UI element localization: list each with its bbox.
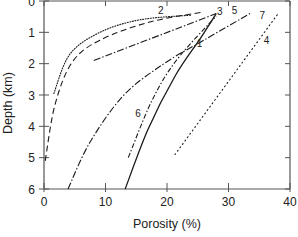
x-tick-label: 0: [41, 195, 48, 209]
axes: 0102030400123456: [28, 0, 297, 209]
y-tick-label: 2: [28, 57, 35, 71]
porosity-depth-chart: 0102030400123456 1234567 Porosity (%) De…: [0, 0, 298, 237]
x-tick-label: 10: [99, 195, 113, 209]
series-group: [45, 12, 277, 189]
curve-6: [128, 16, 216, 158]
x-tick-label: 40: [283, 195, 297, 209]
curve-4: [175, 14, 278, 154]
curve-3: [45, 12, 204, 161]
y-axis-title: Depth (km): [1, 72, 15, 134]
curve-1: [125, 14, 216, 189]
curve-label-1: 1: [197, 38, 203, 49]
curve-7: [68, 14, 250, 189]
curve-labels: 1234567: [135, 5, 270, 119]
x-tick-label: 30: [222, 195, 236, 209]
y-tick-label: 5: [28, 151, 35, 165]
y-tick-label: 3: [28, 89, 35, 103]
x-tick-label: 20: [160, 195, 174, 209]
y-tick-label: 6: [28, 183, 35, 197]
curve-label-3: 3: [217, 6, 223, 17]
y-tick-label: 1: [28, 26, 35, 40]
curve-label-5: 5: [232, 5, 238, 16]
curve-2: [54, 15, 192, 93]
x-axis-title: Porosity (%): [133, 217, 201, 231]
y-tick-label: 0: [28, 0, 35, 9]
curve-label-6: 6: [135, 108, 141, 119]
curve-label-7: 7: [260, 10, 266, 21]
y-tick-label: 4: [28, 120, 35, 134]
curve-label-4: 4: [264, 35, 270, 46]
curve-label-2: 2: [158, 5, 164, 16]
